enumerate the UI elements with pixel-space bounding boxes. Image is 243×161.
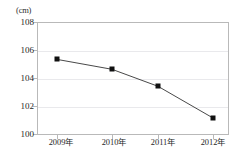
data-point-2009 [55,57,60,62]
data-point-2012 [211,116,216,121]
data-point-2011 [156,84,161,89]
line-chart: (cm) 108 106 104 102 100 2009年 2010年 201… [0,0,243,161]
series-line [57,59,213,118]
data-point-2010 [110,67,115,72]
series-line-layer [0,0,243,161]
